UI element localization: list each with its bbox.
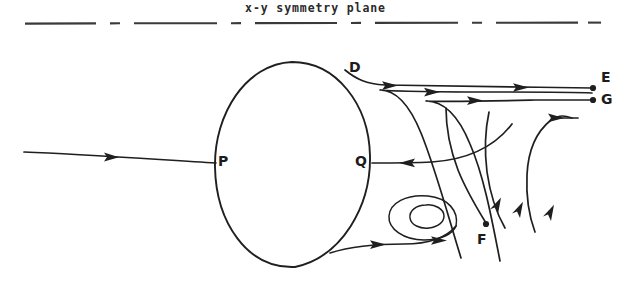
streamline-riser-2 (486, 112, 523, 228)
streamline-riser-3 (527, 114, 578, 233)
streamline-inflow (24, 152, 216, 163)
label-point-q: Q (355, 154, 367, 168)
vortex-spiral (389, 196, 457, 245)
arrow-riser-3-tip (548, 114, 564, 123)
streamline-third-upper (426, 96, 592, 261)
diagram-canvas (0, 0, 631, 283)
streamline-d-to-e (345, 70, 592, 92)
body-outline (215, 62, 370, 267)
arrow-inflow (104, 153, 119, 162)
label-point-p: P (218, 154, 228, 168)
label-point-d: D (349, 60, 361, 74)
streamline-q-inflow (372, 124, 512, 167)
label-point-f: F (477, 232, 487, 246)
arrow-riser-3 (543, 205, 554, 221)
symmetry-plane-line (25, 23, 601, 24)
streamline-f-riser (446, 108, 501, 223)
streamline-topology-figure: x-y symmetry plane (0, 0, 631, 283)
label-point-g: G (601, 92, 613, 106)
node-dot-f (483, 221, 489, 227)
node-dot-g (590, 97, 596, 103)
node-dot-e (590, 85, 596, 91)
label-point-e: E (601, 70, 611, 84)
arrow-riser-2 (512, 202, 523, 218)
